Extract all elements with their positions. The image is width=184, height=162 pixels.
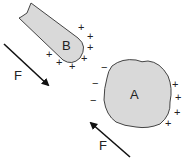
svg-text:+: + — [46, 48, 52, 60]
svg-text:+: + — [56, 56, 62, 68]
svg-text:−: − — [92, 77, 98, 89]
svg-text:+: + — [165, 117, 171, 129]
force-arrow-a: F — [91, 123, 130, 157]
svg-text:+: + — [78, 21, 84, 33]
svg-text:+: + — [87, 41, 93, 53]
diagram-canvas: B A + + + + + + + − − − + + + + F F — [0, 0, 184, 162]
object-a-label: A — [130, 87, 139, 102]
svg-text:+: + — [175, 91, 181, 103]
object-b-label: B — [62, 38, 71, 53]
svg-text:−: − — [101, 61, 107, 73]
svg-text:+: + — [81, 52, 87, 64]
svg-text:+: + — [174, 106, 180, 118]
svg-text:+: + — [172, 78, 178, 90]
force-arrow-b: F — [4, 44, 48, 85]
object-a: A — [104, 60, 171, 128]
svg-text:+: + — [69, 60, 75, 72]
svg-text:−: − — [90, 94, 96, 106]
force-b-label: F — [14, 68, 22, 83]
force-a-label: F — [99, 138, 107, 153]
